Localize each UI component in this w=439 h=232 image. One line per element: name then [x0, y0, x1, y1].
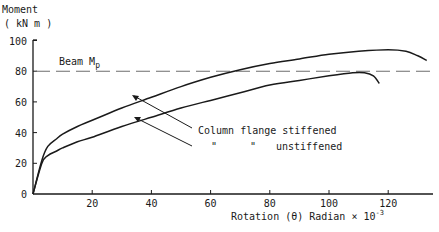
- x-axis-title: Rotation (θ) Radian × 10-3: [231, 209, 384, 222]
- moment-rotation-chart: Moment ( kN m ) 020406080100 20406080100…: [0, 0, 439, 232]
- x-tick-label: 120: [379, 198, 397, 209]
- y-tick-label: 40: [15, 128, 27, 139]
- beam-mp-label: Beam Mp: [59, 56, 100, 70]
- x-tick-label: 60: [205, 198, 217, 209]
- x-tick-label: 20: [86, 198, 98, 209]
- y-axis-title: Moment: [2, 4, 38, 15]
- y-tick-label: 80: [15, 66, 27, 77]
- y-tick-label: 100: [9, 36, 27, 47]
- annotation-unstiffened: unstiffened: [276, 141, 342, 152]
- y-tick-label: 0: [21, 189, 27, 200]
- x-tick-label: 40: [145, 198, 157, 209]
- x-ticks: 20406080100120: [86, 190, 397, 209]
- annotation-arrows: [132, 95, 192, 146]
- annotation-ditto-2: ": [250, 141, 256, 152]
- y-tick-label: 20: [15, 158, 27, 169]
- annotation-ditto-1: ": [211, 141, 217, 152]
- x-tick-label: 80: [264, 198, 276, 209]
- annotation-stiffened: Column flange stiffened: [198, 125, 336, 136]
- y-tick-label: 60: [15, 97, 27, 108]
- y-axis-units: ( kN m ): [4, 18, 52, 29]
- x-tick-label: 100: [320, 198, 338, 209]
